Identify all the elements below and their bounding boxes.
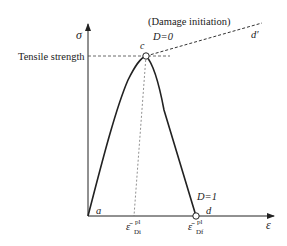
svg-text:pl: pl (135, 218, 141, 226)
svg-text:Df: Df (196, 228, 204, 236)
damage-evolution-diagram: (Damage initiation) D=0 d′ c σ Tensile s… (0, 0, 287, 246)
svg-text:ε̄: ε̄ (126, 221, 133, 232)
svg-text:pl: pl (197, 218, 203, 226)
point-c-marker (143, 53, 149, 59)
point-a-label: a (96, 205, 101, 216)
eps-di-guide (134, 56, 146, 216)
damage-zero-label: D=0 (152, 31, 174, 42)
svg-text:ε̄: ε̄ (188, 221, 195, 232)
loading-curve (88, 56, 146, 216)
x-axis-label: ε (266, 218, 271, 232)
softening-curve (146, 56, 196, 216)
point-d-prime-label: d′ (251, 29, 259, 40)
eps-df-tick-label: ε̄ pl Df (188, 218, 204, 236)
eps-di-tick-label: ε̄ pl Di (126, 218, 141, 236)
point-c-label: c (140, 40, 145, 51)
damage-initiation-label: (Damage initiation) (148, 16, 231, 28)
svg-text:Di: Di (134, 228, 141, 236)
damage-one-label: D=1 (196, 191, 217, 202)
tensile-strength-label: Tensile strength (18, 51, 85, 62)
y-axis-label: σ (76, 28, 83, 42)
point-d-label: d (206, 205, 212, 216)
